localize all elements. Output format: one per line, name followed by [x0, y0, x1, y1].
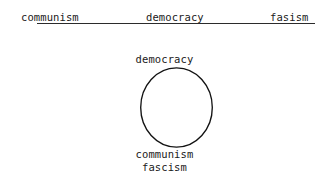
linear-label-fasism: fasism: [270, 11, 309, 23]
political-spectrum-figure: communism democracy fasism democracy com…: [0, 0, 327, 181]
spectrum-circle-icon: [136, 63, 218, 153]
circle-label-fascism: fascism: [1, 161, 327, 174]
linear-label-communism: communism: [21, 11, 79, 23]
circle-outline-shape: [141, 68, 213, 147]
circle-label-communism: communism: [1, 148, 327, 161]
circle-bottom-label-group: communism fascism: [0, 148, 327, 174]
linear-spectrum-axis-line: [37, 23, 315, 24]
linear-label-democracy: democracy: [146, 11, 204, 23]
